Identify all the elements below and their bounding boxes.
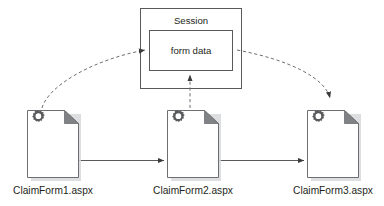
document-claimform2: ClaimForm2.aspx [153, 110, 233, 196]
connector-read-session-to-3 [237, 50, 330, 98]
connector-write-1-to-session [42, 50, 145, 108]
session-form-data-box: form data [150, 31, 233, 71]
document-claimform1: ClaimForm1.aspx [13, 110, 93, 196]
document-caption-claimform3: ClaimForm3.aspx [293, 185, 373, 196]
document-caption-claimform2: ClaimForm2.aspx [153, 185, 233, 196]
session-title: Session [174, 15, 208, 26]
document-claimform3: ClaimForm3.aspx [293, 110, 373, 196]
session-box: Session form data [141, 9, 242, 89]
diagram-canvas: Session form data [0, 0, 384, 206]
form-data-label: form data [171, 45, 212, 56]
diagram-svg: Session form data [0, 0, 384, 206]
document-caption-claimform1: ClaimForm1.aspx [13, 185, 93, 196]
